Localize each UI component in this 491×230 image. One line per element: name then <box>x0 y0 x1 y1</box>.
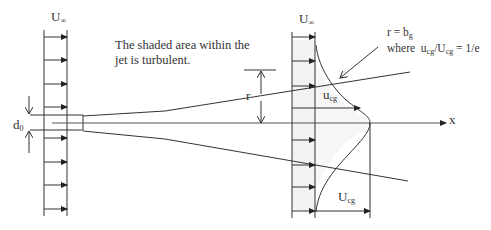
left-freestream-label: U∞ <box>51 10 66 28</box>
bg-definition: r = bg where ucg/Ucg = 1/e <box>387 26 480 58</box>
turbulent-shading <box>292 40 369 210</box>
radius-label: r <box>246 89 250 103</box>
nozzle-diameter-label: d0 <box>13 118 24 136</box>
local-velocity-label: ucg <box>323 88 337 106</box>
bg-pointer-arrow <box>340 47 378 78</box>
right-freestream-label: U∞ <box>299 12 314 30</box>
x-axis-label: x <box>449 113 456 127</box>
turbulence-note: The shaded area within the jet is turbul… <box>115 38 250 68</box>
bg-definition-line1: r = bg <box>387 26 480 42</box>
bg-definition-line2: where ucg/Ucg = 1/e <box>387 42 480 58</box>
note-line-1: The shaded area within the <box>115 38 250 53</box>
centerline-velocity-label: Ucg <box>338 190 355 208</box>
note-line-2: jet is turbulent. <box>115 53 250 68</box>
